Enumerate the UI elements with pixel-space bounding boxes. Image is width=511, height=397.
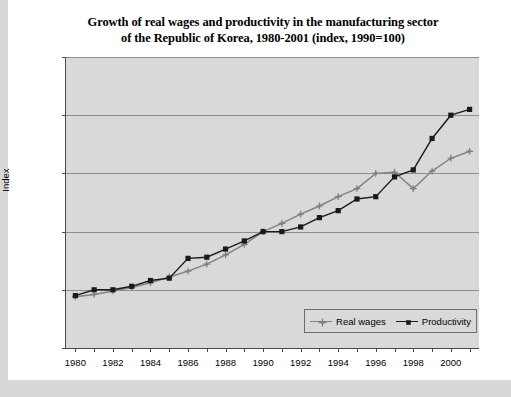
x-tick-label: 1984 [130,357,170,368]
x-tick-mark [432,348,433,352]
legend-label-real-wages: Real wages [336,316,386,327]
x-tick-mark [132,348,133,352]
x-tick-label: 1992 [281,357,321,368]
x-tick-mark [357,348,358,352]
x-tick-mark [94,348,95,352]
series-plot [66,57,479,348]
chart-title-line-2: of the Republic of Korea, 1980-2001 (ind… [48,30,478,46]
x-tick-mark [263,348,264,352]
x-tick-mark [113,348,114,352]
x-tick-label: 2000 [431,357,471,368]
legend-entry-productivity: Productivity [396,316,471,327]
x-tick-mark [150,348,151,352]
chart-title: Growth of real wages and productivity in… [48,14,478,46]
x-tick-mark [395,348,396,352]
x-tick-mark [226,348,227,352]
x-tick-mark [451,348,452,352]
x-tick-label: 1982 [93,357,133,368]
x-tick-mark [282,348,283,352]
x-tick-mark [413,348,414,352]
legend-entry-real-wages: Real wages [310,316,386,327]
x-tick-mark [470,348,471,352]
y-axis-title: Index [0,150,11,210]
x-tick-label: 1998 [393,357,433,368]
x-tick-mark [319,348,320,352]
legend-marker-productivity [396,316,418,326]
legend-marker-real-wages [310,316,332,326]
x-tick-label: 1994 [318,357,358,368]
chart-title-line-1: Growth of real wages and productivity in… [48,14,478,30]
x-tick-mark [301,348,302,352]
x-tick-mark [376,348,377,352]
x-tick-mark [75,348,76,352]
x-tick-label: 1980 [55,357,95,368]
x-tick-mark [188,348,189,352]
chart-legend: Real wages Productivity [304,309,477,333]
x-tick-label: 1996 [356,357,396,368]
x-tick-mark [244,348,245,352]
x-tick-label: 1986 [168,357,208,368]
series-productivity [73,107,472,298]
x-tick-label: 1990 [243,357,283,368]
x-tick-mark [169,348,170,352]
plot-area: 0.050.0100.0150.0200.0250.0 198019821984… [65,57,479,349]
chart-card: Growth of real wages and productivity in… [8,0,511,380]
legend-label-productivity: Productivity [422,316,471,327]
y-tick-mark [62,348,66,349]
x-tick-mark [207,348,208,352]
x-tick-label: 1988 [206,357,246,368]
x-tick-mark [338,348,339,352]
